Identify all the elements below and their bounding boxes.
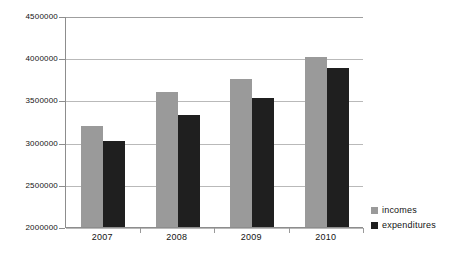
y-tick-mark bbox=[59, 17, 65, 18]
legend-item-expenditures[interactable]: expenditures bbox=[371, 218, 466, 232]
y-tick-mark bbox=[59, 59, 65, 60]
gridline bbox=[66, 17, 363, 18]
x-tick-mark bbox=[363, 228, 364, 233]
legend-swatch-expenditures bbox=[371, 222, 378, 229]
bar-expenditures-2007 bbox=[103, 141, 125, 227]
x-tick-label: 2007 bbox=[77, 232, 127, 243]
bar-incomes-2007 bbox=[81, 126, 103, 227]
y-tick-mark bbox=[59, 144, 65, 145]
legend-swatch-incomes bbox=[371, 207, 378, 214]
bar-chart: 2000000250000030000003500000400000045000… bbox=[0, 0, 468, 270]
y-axis: 2000000250000030000003500000400000045000… bbox=[0, 0, 58, 270]
bar-expenditures-2010 bbox=[327, 68, 349, 227]
x-axis: 2007200820092010 bbox=[65, 232, 363, 252]
y-tick-mark bbox=[59, 101, 65, 102]
y-tick-mark bbox=[59, 228, 65, 229]
plot-area bbox=[65, 17, 363, 228]
y-tick-label: 2000000 bbox=[0, 223, 58, 232]
chart-legend: incomesexpenditures bbox=[371, 203, 466, 233]
x-tick-label: 2010 bbox=[301, 232, 351, 243]
x-tick-mark bbox=[289, 228, 290, 233]
y-tick-label: 3000000 bbox=[0, 139, 58, 148]
y-tick-label: 4500000 bbox=[0, 12, 58, 21]
x-tick-label: 2008 bbox=[152, 232, 202, 243]
x-tick-label: 2009 bbox=[226, 232, 276, 243]
legend-item-incomes[interactable]: incomes bbox=[371, 203, 466, 217]
bar-expenditures-2008 bbox=[178, 115, 200, 227]
legend-label: expenditures bbox=[382, 220, 436, 231]
y-tick-label: 3500000 bbox=[0, 96, 58, 105]
bar-incomes-2009 bbox=[230, 79, 252, 227]
x-tick-mark bbox=[214, 228, 215, 233]
bar-incomes-2010 bbox=[305, 57, 327, 227]
bar-expenditures-2009 bbox=[252, 98, 274, 227]
y-tick-label: 4000000 bbox=[0, 54, 58, 63]
bar-incomes-2008 bbox=[156, 92, 178, 227]
legend-label: incomes bbox=[382, 205, 417, 216]
x-tick-mark bbox=[140, 228, 141, 233]
y-tick-mark bbox=[59, 186, 65, 187]
y-tick-label: 2500000 bbox=[0, 181, 58, 190]
